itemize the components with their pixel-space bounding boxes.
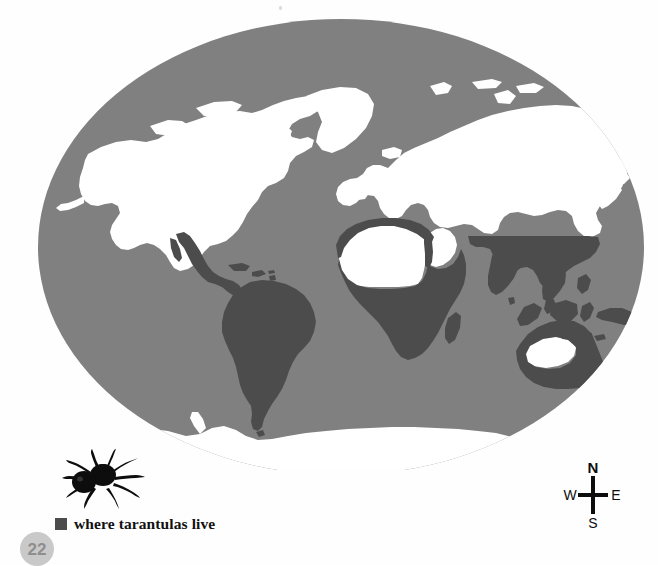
- legend-color-swatch: [55, 518, 67, 530]
- compass-south-label: S: [588, 515, 597, 530]
- tarantula-icon: [60, 448, 150, 510]
- new-zealand-group: [605, 368, 629, 398]
- new-siberian-islands: [570, 89, 598, 100]
- legend-entry: where tarantulas live: [55, 515, 302, 533]
- new-zealand-south: [605, 380, 624, 398]
- sakhalin: [620, 152, 632, 170]
- page-number-badge: 22: [20, 532, 54, 566]
- compass-east-label: E: [611, 487, 620, 503]
- compass-rose: N S W E: [556, 458, 630, 530]
- tasmania: [579, 392, 594, 402]
- new-zealand-north: [616, 368, 629, 382]
- map-legend: where tarantulas live: [52, 448, 302, 533]
- kamchatka: [633, 126, 648, 150]
- legend-label: where tarantulas live: [74, 515, 215, 533]
- compass-horizontal-bar: [578, 493, 608, 497]
- compass-west-label: W: [563, 487, 577, 503]
- compass-north-label: N: [588, 459, 599, 476]
- world-map-svg: [0, 0, 658, 470]
- lesser-antilles: [269, 275, 276, 281]
- compass-rose-svg: N S W E: [556, 458, 630, 530]
- page-number: 22: [28, 541, 47, 558]
- world-map-figure: [0, 0, 658, 470]
